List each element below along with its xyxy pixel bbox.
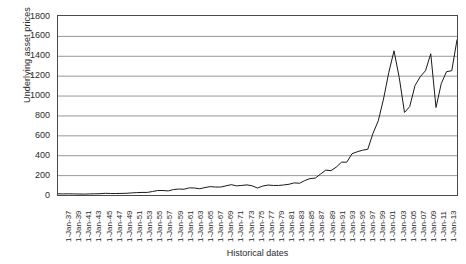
y-axis-tick-label: 200 <box>35 171 50 180</box>
x-axis-title: Historical dates <box>57 248 458 258</box>
y-axis-tick-label: 1000 <box>30 91 50 100</box>
gridlines <box>58 36 457 175</box>
y-axis-tick-label: 1400 <box>30 51 50 60</box>
x-axis-tick-label: 1-Jan-67 <box>217 210 225 242</box>
x-axis-tick-label: 1-Jan-89 <box>329 210 337 242</box>
x-axis-tick-label: 1-Jan-85 <box>308 210 316 242</box>
x-axis-tick-label: 1-Jan-77 <box>268 210 276 242</box>
x-axis-tick-label: 1-Jan-63 <box>197 210 205 242</box>
x-axis-tick-label: 1-Jan-69 <box>227 210 235 242</box>
plot-area <box>57 15 458 196</box>
x-axis-tick-label: 1-Jan-99 <box>379 210 387 242</box>
x-axis-tick-label: 1-Jan-39 <box>75 210 83 242</box>
price-line-path <box>58 40 457 194</box>
x-axis-tick-label: 1-Jan-87 <box>318 210 326 242</box>
x-axis-tick-label: 1-Jan-81 <box>288 210 296 242</box>
x-axis-tick-label: 1-Jan-97 <box>369 210 377 242</box>
x-axis-tick-label: 1-Jan-07 <box>420 210 428 242</box>
x-axis-tick-label: 1-Jan-53 <box>146 210 154 242</box>
x-axis-tick-label: 1-Jan-75 <box>258 210 266 242</box>
y-axis-tick-label: 1800 <box>30 12 50 21</box>
x-axis-tick-label: 1-Jan-51 <box>136 210 144 242</box>
x-axis-tick-label: 1-Jan-91 <box>339 210 347 242</box>
x-axis-tick-label: 1-Jan-71 <box>237 210 245 242</box>
x-axis-tick-label: 1-Jan-47 <box>116 210 124 242</box>
x-axis-tick-label: 1-Jan-43 <box>95 210 103 242</box>
x-axis-tick-label: 1-Jan-01 <box>389 210 397 242</box>
x-axis-tick-label: 1-Jan-79 <box>278 210 286 242</box>
x-axis-tick-label: 1-Jan-45 <box>106 210 114 242</box>
x-axis-tick-labels: 1-Jan-371-Jan-391-Jan-411-Jan-431-Jan-45… <box>0 196 466 244</box>
x-axis-tick-label: 1-Jan-65 <box>207 210 215 242</box>
x-axis-tick-label: 1-Jan-57 <box>166 210 174 242</box>
chart-container: Underlying asset prices 1800160014001200… <box>0 0 466 264</box>
x-axis-tick-label: 1-Jan-95 <box>359 210 367 242</box>
x-axis-tick-label: 1-Jan-55 <box>156 210 164 242</box>
x-axis-tick-label: 1-Jan-73 <box>248 210 256 242</box>
x-axis-tick-label: 1-Jan-09 <box>430 210 438 242</box>
x-axis-tick-label: 1-Jan-93 <box>349 210 357 242</box>
x-axis-tick-label: 1-Jan-41 <box>85 210 93 242</box>
y-axis-tick-label: 1200 <box>30 71 50 80</box>
line-series-svg <box>58 16 457 195</box>
x-axis-tick-label: 1-Jan-37 <box>65 210 73 242</box>
x-axis-tick-label: 1-Jan-11 <box>440 211 448 242</box>
x-axis-tick-label: 1-Jan-13 <box>450 210 458 242</box>
x-axis-tick-label: 1-Jan-59 <box>177 210 185 242</box>
x-axis-tick-label: 1-Jan-03 <box>400 210 408 242</box>
x-axis-tick-label: 1-Jan-49 <box>126 210 134 242</box>
y-axis-tick-label: 400 <box>35 151 50 160</box>
x-axis-tick-label: 1-Jan-05 <box>410 210 418 242</box>
x-axis-tick-label: 1-Jan-61 <box>187 210 195 242</box>
y-axis-tick-label: 1600 <box>30 31 50 40</box>
y-axis-tick-label: 600 <box>35 131 50 140</box>
x-axis-tick-label: 1-Jan-83 <box>298 210 306 242</box>
y-axis-tick-label: 800 <box>35 111 50 120</box>
